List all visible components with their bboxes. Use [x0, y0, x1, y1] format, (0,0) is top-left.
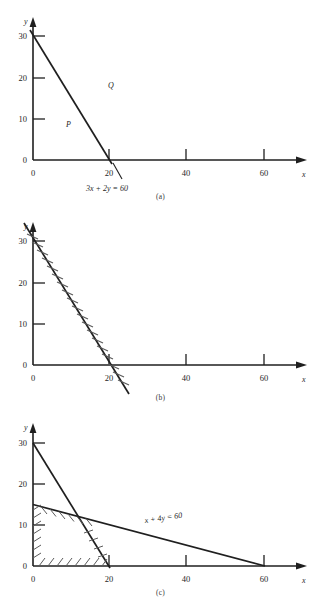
panel-b-plot: 30 20 10 0 0 20 40 60 y x: [0, 205, 321, 395]
y-axis-arrowhead-c: [30, 423, 37, 433]
x-axis-label-a: x: [301, 170, 306, 179]
x-tick-label-0-c: 0: [31, 574, 35, 584]
x-tick-label-0-a: 0: [31, 168, 35, 178]
x-axis-arrowhead-b: [296, 361, 307, 368]
panel-caption-c: (c): [0, 588, 321, 597]
x-axis-label-b: x: [301, 375, 306, 384]
region-label-p-a: P: [65, 120, 71, 129]
panel-a: 30 20 10 0 0 20 40 60 y x P Q 3x + 2y = …: [0, 0, 321, 195]
figure-page: 30 20 10 0 0 20 40 60 y x P Q 3x + 2y = …: [0, 0, 321, 606]
x-tick-label-40-b: 40: [182, 373, 191, 383]
y-tick-label-0-a: 0: [23, 155, 27, 165]
x-tick-label-20-c: 20: [105, 574, 114, 584]
leader-line-a: [113, 163, 122, 179]
y-tick-label-10-c: 10: [19, 520, 28, 530]
line-x-4y-60-c: [33, 505, 265, 567]
y-axis-label-c: y: [23, 423, 28, 432]
y-tick-label-10-a: 10: [19, 114, 28, 124]
panel-c: 30 20 10 0 0 20 40 60 y x: [0, 406, 321, 606]
x-tick-label-20-b: 20: [105, 373, 114, 383]
panel-caption-b: (b): [0, 393, 321, 402]
y-tick-label-30-a: 30: [19, 31, 28, 41]
panel-caption-a: (a): [0, 192, 321, 201]
y-tick-label-0-b: 0: [23, 360, 27, 370]
y-tick-label-20-c: 20: [19, 479, 28, 489]
x-tick-label-40-a: 40: [182, 168, 191, 178]
x-axis-arrowhead-c: [296, 562, 307, 569]
x-tick-label-60-a: 60: [260, 168, 269, 178]
line-3x-2y-60-c: [33, 443, 110, 568]
y-tick-label-20-a: 20: [19, 73, 28, 83]
x-tick-label-0-b: 0: [31, 373, 35, 383]
panel-c-plot: 30 20 10 0 0 20 40 60 y x: [0, 406, 321, 606]
x-tick-label-60-c: 60: [260, 574, 269, 584]
y-tick-label-10-b: 10: [19, 319, 28, 329]
x-tick-label-40-c: 40: [182, 574, 191, 584]
y-axis-arrowhead-a: [30, 17, 37, 27]
x-axis-arrowhead-a: [296, 156, 307, 163]
line-3x-2y-60-a: [30, 30, 112, 164]
region-label-q-a: Q: [108, 81, 114, 90]
panel-b: 30 20 10 0 0 20 40 60 y x: [0, 205, 321, 395]
panel-a-plot: 30 20 10 0 0 20 40 60 y x P Q 3x + 2y = …: [0, 0, 321, 195]
y-tick-label-30-c: 30: [19, 438, 28, 448]
x-axis-label-c: x: [301, 576, 306, 585]
equation-label-x-4y-60-c: x + 4y = 60: [143, 511, 183, 525]
y-tick-label-20-b: 20: [19, 278, 28, 288]
y-tick-label-30-b: 30: [19, 236, 28, 246]
y-tick-label-0-c: 0: [23, 561, 27, 571]
x-tick-label-20-a: 20: [105, 168, 114, 178]
y-axis-arrowhead-b: [30, 222, 37, 232]
x-tick-label-60-b: 60: [260, 373, 269, 383]
y-axis-label-a: y: [23, 17, 28, 26]
